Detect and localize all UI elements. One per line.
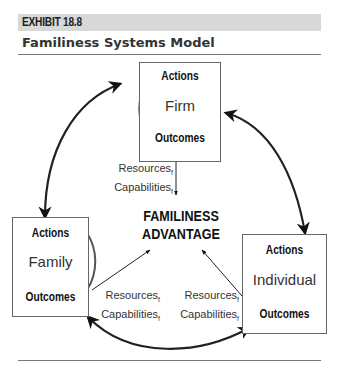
family-label: Family	[13, 253, 88, 270]
familiness-advantage: FAMILINESS ADVANTAGE	[132, 207, 231, 243]
individual-flow-label: Resourcesf Capabilitiesf	[163, 288, 239, 326]
firm-actions-label: Actions	[146, 69, 214, 83]
node-individual: Actions Individual Outcomes	[242, 234, 327, 334]
arrow-firm-individual	[226, 113, 305, 233]
node-family: Actions Family Outcomes	[12, 217, 89, 317]
firm-label: Firm	[140, 97, 220, 114]
individual-outcomes-label: Outcomes	[249, 307, 320, 321]
bottom-rule	[18, 360, 321, 361]
family-outcomes-label: Outcomes	[19, 290, 83, 304]
firm-flow-label: Resourcesf Capabilitiesf	[98, 161, 173, 199]
individual-label: Individual	[243, 271, 326, 288]
firm-outcomes-label: Outcomes	[146, 131, 214, 145]
node-firm: Actions Firm Outcomes	[139, 62, 221, 162]
family-actions-label: Actions	[19, 226, 83, 240]
family-flow-label: Resourcesf Capabilitiesf	[90, 288, 160, 326]
individual-actions-label: Actions	[249, 243, 320, 257]
